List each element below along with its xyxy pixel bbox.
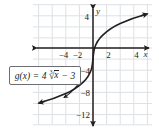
y-tick-label-neg12: −12 <box>76 110 90 120</box>
equation-suffix: − 3 <box>61 71 75 81</box>
x-tick-label-neg4: −4 <box>59 50 69 60</box>
y-axis-name: y <box>95 6 100 16</box>
x-tick-label-2: 2 <box>106 50 111 60</box>
cube-root-icon: 3 √ x <box>47 70 59 81</box>
radicand: x <box>54 70 59 81</box>
equation-text: g(x) = 4 3 √ x − 3 <box>15 70 76 81</box>
equation-callout-box: g(x) = 4 3 √ x − 3 <box>9 66 81 85</box>
y-tick-label-4: 4 <box>85 12 90 22</box>
radical-index: 3 <box>50 69 53 75</box>
equation-prefix: g(x) = 4 <box>15 71 47 81</box>
x-axis-name: x <box>143 49 148 59</box>
y-tick-label-neg8: −8 <box>80 88 90 98</box>
graph-figure: −4 −2 2 4 4 −4 −8 −12 x y g(x) = 4 3 √ x <box>0 0 159 131</box>
x-tick-label-neg2: −2 <box>73 50 83 60</box>
x-tick-label-4: 4 <box>134 50 139 60</box>
